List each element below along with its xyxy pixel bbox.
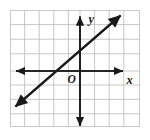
- origin-label: O: [68, 73, 76, 85]
- plot-border: [11, 11, 140, 127]
- x-axis-label: x: [126, 73, 133, 87]
- coordinate-plane-figure: y x O: [0, 0, 150, 140]
- y-axis-label: y: [87, 12, 95, 26]
- graph-canvas: y x O: [0, 0, 150, 140]
